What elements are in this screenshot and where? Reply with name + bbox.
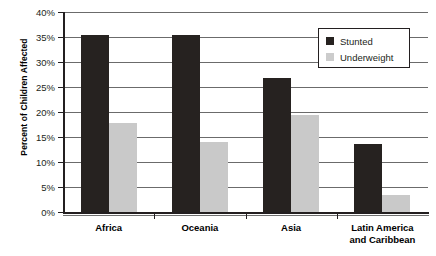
y-axis-tick-label: 40% bbox=[36, 7, 55, 18]
gridline bbox=[65, 87, 428, 88]
x-axis-category-label: Africa bbox=[63, 222, 154, 234]
bar-stunted-latin-america-and-caribbean bbox=[354, 144, 382, 212]
legend-label: Underweight bbox=[340, 52, 393, 63]
legend-swatch-icon bbox=[326, 53, 334, 61]
x-axis-category-label-line: and Caribbean bbox=[337, 234, 428, 246]
y-axis-tick bbox=[58, 62, 63, 63]
y-axis-tick bbox=[58, 162, 63, 163]
x-axis-category-separator bbox=[337, 213, 338, 219]
y-axis-tick bbox=[58, 137, 63, 138]
bar-underweight-latin-america-and-caribbean bbox=[382, 195, 410, 213]
bar-underweight-asia bbox=[291, 115, 319, 213]
y-axis-tick-label: 5% bbox=[41, 182, 55, 193]
x-axis-category-label-line: Latin America bbox=[337, 222, 428, 234]
y-axis-tick bbox=[58, 187, 63, 188]
x-axis-category-label: Asia bbox=[246, 222, 337, 234]
y-axis-tick bbox=[58, 87, 63, 88]
y-axis-tick bbox=[58, 12, 63, 13]
legend-label: Stunted bbox=[340, 36, 373, 47]
y-axis-tick bbox=[58, 112, 63, 113]
bar-stunted-asia bbox=[263, 78, 291, 212]
x-axis-category-label: Oceania bbox=[154, 222, 245, 234]
x-axis-category-label-line: Africa bbox=[63, 222, 154, 234]
y-axis-tick-label: 0% bbox=[41, 207, 55, 218]
bar-underweight-africa bbox=[109, 123, 137, 212]
bar-stunted-oceania bbox=[172, 35, 200, 212]
bar-chart: Percent of Children Affected 0%5%10%15%2… bbox=[0, 0, 436, 256]
gridline bbox=[65, 112, 428, 113]
legend-swatch-icon bbox=[326, 37, 334, 45]
x-axis-category-separator bbox=[246, 213, 247, 219]
y-axis-tick bbox=[58, 37, 63, 38]
y-axis-tick-label: 10% bbox=[36, 157, 55, 168]
x-axis-category-separator bbox=[154, 213, 155, 219]
x-axis-category-label-line: Oceania bbox=[154, 222, 245, 234]
y-axis-tick-label: 35% bbox=[36, 32, 55, 43]
gridline bbox=[65, 12, 428, 13]
y-axis-tick-label: 30% bbox=[36, 57, 55, 68]
y-axis-tick-label: 15% bbox=[36, 132, 55, 143]
bar-underweight-oceania bbox=[200, 142, 228, 213]
y-axis-tick-label: 20% bbox=[36, 107, 55, 118]
legend-item: Stunted bbox=[326, 33, 409, 49]
bar-stunted-africa bbox=[81, 35, 109, 213]
x-axis-category-label-line: Asia bbox=[246, 222, 337, 234]
x-axis-category-label: Latin Americaand Caribbean bbox=[337, 222, 428, 245]
y-axis-tick-label: 25% bbox=[36, 82, 55, 93]
y-axis-title: Percent of Children Affected bbox=[19, 27, 29, 167]
legend-item: Underweight bbox=[326, 49, 409, 65]
y-axis-tick bbox=[58, 212, 63, 213]
chart-legend: StuntedUnderweight bbox=[318, 28, 410, 68]
